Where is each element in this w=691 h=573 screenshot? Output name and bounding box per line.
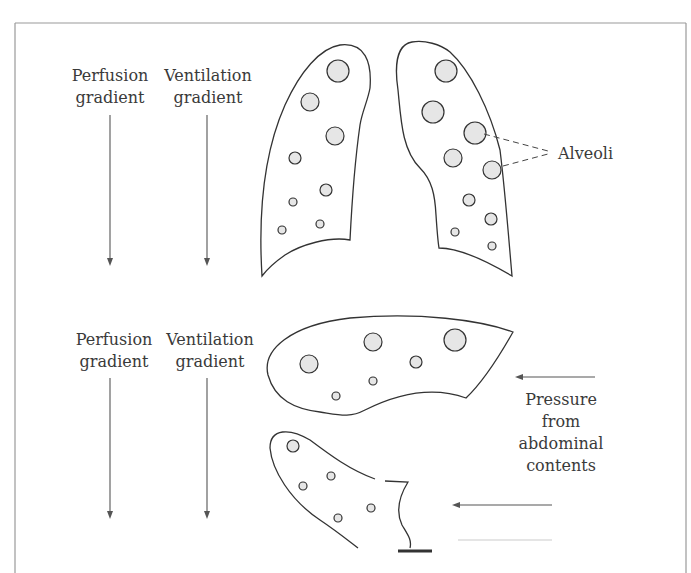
left-lung <box>261 45 370 276</box>
alveolus-icon <box>320 184 332 196</box>
alveolus-icon <box>435 60 457 82</box>
alveolus-icon <box>451 228 459 236</box>
lower-lung-supine-edge <box>385 481 411 548</box>
supine-ventilation-label-line2: gradient <box>176 352 246 371</box>
alveolus-icon <box>334 514 342 522</box>
alveolus-icon <box>483 161 501 179</box>
alveolus-icon <box>410 356 422 368</box>
upright-perfusion-label-line1: Perfusion <box>72 66 149 85</box>
supine-ventilation-label-line1: Ventilation <box>165 330 254 349</box>
alveolus-icon <box>327 472 335 480</box>
alveolus-icon <box>327 60 349 82</box>
alveolus-icon <box>287 440 299 452</box>
upright-panel: Perfusion gradient Ventilation gradient … <box>72 41 613 276</box>
pressure-label-line2: from <box>542 412 580 431</box>
upright-ventilation-label-line2: gradient <box>174 88 244 107</box>
alveolus-icon <box>369 377 377 385</box>
alveolus-icon <box>422 101 444 123</box>
alveolus-icon <box>326 127 344 145</box>
pressure-label-line3: abdominal <box>519 434 604 453</box>
alveolus-icon <box>367 504 375 512</box>
upright-perfusion-label-line2: gradient <box>76 88 146 107</box>
alveolus-icon <box>278 226 286 234</box>
lower-lung-supine <box>270 432 375 548</box>
alveolus-icon <box>289 198 297 206</box>
alveolus-icon <box>301 93 319 111</box>
alveolus-icon <box>444 149 462 167</box>
alveoli-label: Alveoli <box>557 144 613 163</box>
supine-perfusion-label-line2: gradient <box>80 352 150 371</box>
alveolus-icon <box>332 392 340 400</box>
alveolus-icon <box>463 194 475 206</box>
alveolus-icon <box>464 122 486 144</box>
alveolus-icon <box>300 355 318 373</box>
alveolus-icon <box>289 152 301 164</box>
supine-perfusion-label-line1: Perfusion <box>76 330 153 349</box>
pressure-label-line4: contents <box>526 456 596 475</box>
alveolus-icon <box>299 482 307 490</box>
alveolus-icon <box>485 213 497 225</box>
alveolus-icon <box>364 333 382 351</box>
upright-ventilation-label-line1: Ventilation <box>163 66 252 85</box>
alveolus-icon <box>444 329 466 351</box>
alveolus-icon <box>488 242 496 250</box>
pressure-label-line1: Pressure <box>525 390 597 409</box>
alveolus-icon <box>316 220 324 228</box>
lung-diagram: Perfusion gradient Ventilation gradient … <box>0 0 691 573</box>
supine-panel: Perfusion gradient Ventilation gradient … <box>76 316 604 551</box>
